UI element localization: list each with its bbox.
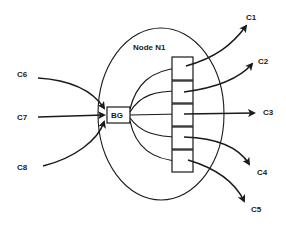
input-label-c6: C6 bbox=[17, 70, 28, 79]
bg-buffer-label: BG bbox=[111, 111, 123, 120]
node-n1-label: Node N1 bbox=[133, 43, 166, 52]
queue-cell-2 bbox=[172, 81, 193, 103]
queue-cell-1 bbox=[172, 57, 193, 80]
input-links bbox=[38, 78, 104, 166]
output-label-c2: C2 bbox=[258, 57, 269, 66]
output-label-c1: C1 bbox=[246, 13, 257, 22]
output-label-c5: C5 bbox=[251, 205, 262, 214]
output-link-c3 bbox=[184, 113, 254, 114]
output-link-c4 bbox=[184, 137, 249, 164]
node-routing-diagram: Node N1 BG C6 C7 C8 C1 C2 C3 C4 C5 bbox=[0, 0, 286, 226]
output-link-c1 bbox=[186, 26, 246, 66]
input-link-c7 bbox=[38, 115, 104, 117]
input-link-c8 bbox=[43, 122, 104, 166]
output-label-c3: C3 bbox=[263, 108, 274, 117]
output-links bbox=[184, 26, 254, 201]
output-link-c5 bbox=[188, 160, 244, 201]
input-label-c7: C7 bbox=[17, 113, 28, 122]
queue-cell-3 bbox=[172, 104, 193, 126]
output-label-c4: C4 bbox=[257, 168, 268, 177]
input-link-c6 bbox=[38, 78, 104, 108]
input-label-c8: C8 bbox=[17, 163, 28, 172]
